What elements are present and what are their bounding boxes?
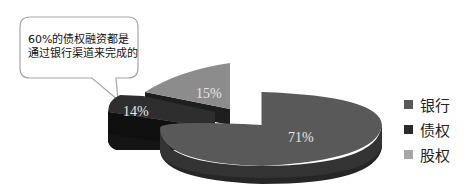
callout-text: 60%的债权融资都是通过银行渠道来完成的 (28, 33, 138, 61)
label-bank: 71% (288, 130, 314, 145)
legend-item-equity: 股权 (404, 142, 450, 167)
legend-swatch-icon (404, 100, 413, 109)
legend-label: 债权 (420, 119, 450, 140)
label-debt: 14% (123, 104, 149, 119)
pie-chart: 15% 14% 71% (0, 0, 468, 184)
legend-label: 股权 (420, 144, 450, 165)
legend-label: 银行 (420, 94, 450, 115)
legend: 银行 债权 股权 (404, 92, 450, 167)
label-equity: 15% (196, 86, 222, 101)
legend-swatch-icon (404, 150, 413, 159)
legend-item-debt: 债权 (404, 117, 450, 142)
legend-swatch-icon (404, 125, 413, 134)
legend-item-bank: 银行 (404, 92, 450, 117)
